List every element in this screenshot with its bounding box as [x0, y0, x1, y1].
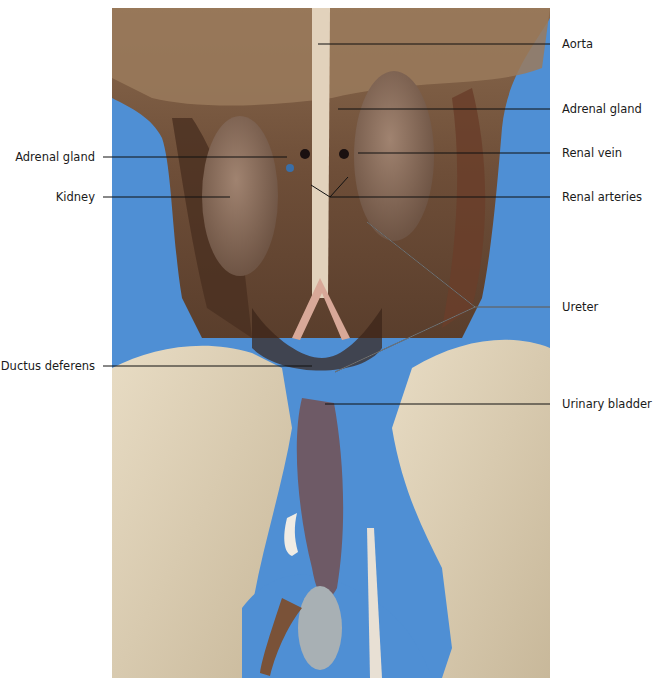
- label-ductus-deferens: Ductus deferens: [0, 359, 95, 373]
- label-kidney: Kidney: [0, 190, 95, 204]
- label-urinary-bladder: Urinary bladder: [562, 397, 652, 411]
- label-aorta: Aorta: [562, 37, 593, 51]
- label-ureter: Ureter: [562, 300, 598, 314]
- label-adrenal-gland-right: Adrenal gland: [562, 102, 642, 116]
- label-adrenal-gland-left: Adrenal gland: [0, 150, 95, 164]
- label-renal-vein: Renal vein: [562, 146, 622, 160]
- label-renal-arteries: Renal arteries: [562, 190, 642, 204]
- specimen-illustration: [112, 8, 550, 678]
- dissection-photo: [112, 8, 550, 678]
- anatomy-figure: Aorta Adrenal gland Renal vein Renal art…: [0, 0, 657, 688]
